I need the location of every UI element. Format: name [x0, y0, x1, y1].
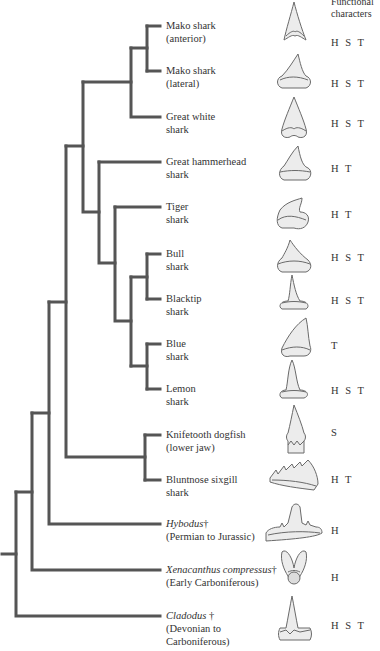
functions-hybodus: H — [331, 525, 341, 536]
taxon-label-mako-anterior: Mako shark (anterior) — [166, 19, 216, 45]
taxon-label-tiger: Tiger shark — [166, 200, 189, 226]
tooth-mako-anterior-icon — [284, 2, 306, 40]
header-line2: characters — [331, 8, 374, 20]
tooth-bull-icon — [278, 240, 311, 272]
taxon-label-bluntnose-sixgill: Bluntnose sixgill shark — [166, 473, 237, 499]
functions-blue: T — [331, 340, 339, 351]
tooth-blue-icon — [281, 318, 310, 357]
functions-knifetooth-dogfish: S — [331, 427, 339, 438]
functions-great-hammerhead: H T — [331, 163, 353, 174]
functions-xenacanthus: H — [331, 572, 341, 583]
taxon-label-lemon: Lemon shark — [166, 382, 196, 408]
taxon-label-cladodus: Cladodus † (Devonian to Carboniferous) — [166, 609, 230, 648]
functions-lemon: H S T — [331, 385, 366, 396]
taxon-label-blacktip: Blacktip shark — [166, 292, 202, 318]
functions-mako-lateral: H S T — [331, 78, 366, 89]
taxon-label-hybodus: Hybodus† (Permian to Jurassic) — [166, 517, 255, 543]
functional-characters-header: Functional characters — [331, 0, 374, 20]
tooth-great-white-icon — [281, 97, 306, 138]
functions-cladodus: H S T — [331, 620, 366, 631]
phylogenetic-tree — [0, 0, 380, 651]
taxon-label-xenacanthus: Xenacanthus compressus† (Early Carbonife… — [166, 563, 277, 589]
taxon-label-great-white: Great white shark — [166, 110, 215, 136]
taxon-label-great-hammerhead: Great hammerhead shark — [166, 155, 246, 181]
header-line1: Functional — [331, 0, 374, 8]
tooth-bluntnose-sixgill-icon — [270, 460, 318, 490]
tooth-xenacanthus-icon — [281, 551, 306, 584]
tooth-tiger-icon — [277, 198, 308, 229]
tooth-cladodus-icon — [279, 596, 312, 640]
tooth-hybodus-icon — [266, 504, 322, 541]
tooth-blacktip-icon — [280, 275, 308, 309]
functions-tiger: H T — [331, 209, 353, 220]
taxon-label-mako-lateral: Mako shark (lateral) — [166, 64, 216, 90]
functions-blacktip: H S T — [331, 295, 366, 306]
tooth-great-hammerhead-icon — [280, 146, 311, 180]
functions-great-white: H S T — [331, 118, 366, 129]
functions-bull: H S T — [331, 252, 366, 263]
tooth-lemon-icon — [280, 360, 308, 398]
taxon-label-bull: Bull shark — [166, 247, 189, 273]
taxon-label-knifetooth-dogfish: Knifetooth dogfish (lower jaw) — [166, 428, 246, 454]
tooth-mako-lateral-icon — [278, 54, 311, 88]
tooth-knifetooth-dogfish-icon — [287, 405, 306, 453]
functions-mako-anterior: H S T — [331, 37, 366, 48]
functions-bluntnose-sixgill: H T — [331, 474, 353, 485]
taxon-label-blue: Blue shark — [166, 337, 189, 363]
